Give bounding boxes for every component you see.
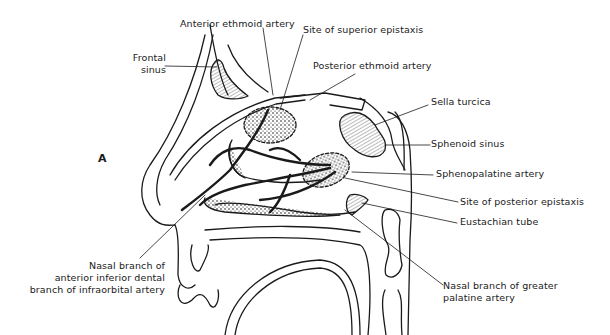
label-sella-turcica: Sella turcica: [431, 96, 491, 108]
label-nasal-branch-palatine-line1: Nasal branch of greater: [443, 280, 558, 292]
label-posterior-ethmoid-artery: Posterior ethmoid artery: [313, 60, 432, 72]
panel-letter: A: [98, 152, 107, 165]
label-eustachian-tube: Eustachian tube: [460, 216, 538, 228]
label-sphenoid-sinus: Sphenoid sinus: [431, 138, 504, 150]
label-site-posterior-epistaxis: Site of posterior epistaxis: [460, 196, 584, 208]
label-nasal-branch-palatine-line2: palatine artery: [443, 292, 515, 304]
sphenoid-sinus-shape: [340, 112, 386, 156]
label-site-superior-epistaxis: Site of superior epistaxis: [303, 24, 423, 36]
label-sphenopalatine-artery: Sphenopalatine artery: [436, 168, 544, 180]
label-nasal-branch-dental-line3: branch of infraorbital artery: [20, 284, 165, 296]
label-frontal-sinus-line2: sinus: [124, 64, 166, 76]
label-nasal-branch-dental-line2: anterior inferior dental: [20, 272, 165, 284]
anatomy-diagram: Anterior ethmoid artery Site of superior…: [0, 0, 610, 335]
label-nasal-branch-dental-line1: Nasal branch of: [20, 260, 165, 272]
label-frontal-sinus-line1: Frontal: [124, 52, 166, 64]
label-anterior-ethmoid-artery: Anterior ethmoid artery: [180, 18, 295, 30]
inferior-turbinate: [204, 198, 340, 216]
frontal-sinus-shape: [211, 60, 248, 99]
eustachian-tube-shape: [346, 194, 368, 215]
